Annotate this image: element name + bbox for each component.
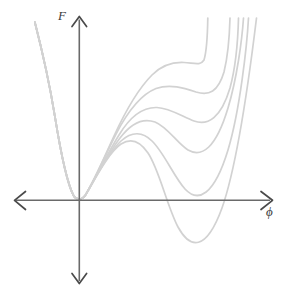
plot-canvas bbox=[0, 0, 289, 295]
vertical-axis-label: F bbox=[58, 9, 66, 22]
free-energy-curve-family bbox=[35, 18, 257, 243]
free-energy-curve-1 bbox=[35, 18, 208, 199]
horizontal-axis-label: ϕ bbox=[266, 205, 273, 218]
free-energy-curve-6 bbox=[35, 18, 257, 243]
free-energy-curve-2 bbox=[35, 18, 230, 199]
axis-group bbox=[15, 17, 273, 284]
free-energy-figure: F ϕ bbox=[0, 0, 289, 295]
free-energy-curve-5 bbox=[35, 18, 249, 199]
